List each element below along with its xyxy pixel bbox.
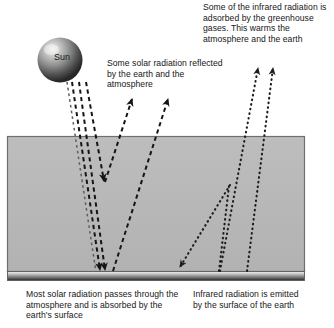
caption-solar-radiation-reflected: Some solar radiation reflected by the ea… xyxy=(107,58,223,90)
earth-surface-region xyxy=(8,272,305,281)
caption-most-solar-radiation-absorbed: Most solar radiation passes through the … xyxy=(26,289,184,321)
atmosphere-rect xyxy=(8,137,305,272)
sun-label: Sun xyxy=(46,52,78,62)
earth-surface-bar xyxy=(8,272,305,281)
diagram-vector-layer xyxy=(0,0,334,328)
atmosphere-region xyxy=(8,137,305,272)
caption-infrared-absorbed-by-greenhouse-gases: Some of the infrared radiation is adsorb… xyxy=(203,2,334,44)
greenhouse-effect-diagram: Sun Some of the infrared radiation is ad… xyxy=(0,0,334,328)
caption-infrared-radiation-emitted: Infrared radiation is emitted by the sur… xyxy=(193,289,303,310)
